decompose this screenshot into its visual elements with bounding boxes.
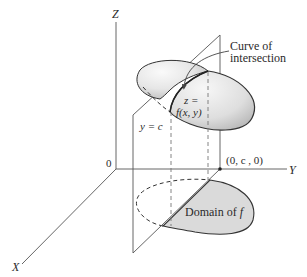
domain-label: Domain of f (185, 206, 243, 218)
point-label: (0, c , 0) (226, 155, 263, 166)
surface-label-line2: f(x, y) (176, 107, 202, 118)
point-0-c-0 (218, 167, 222, 171)
x-axis (22, 169, 116, 264)
y-axis-label: Y (289, 164, 296, 176)
plane-label: y = c (140, 121, 163, 132)
surface-label-line1: z = (184, 95, 198, 106)
domain-label-f: f (240, 205, 243, 219)
z-axis-label: Z (112, 8, 119, 20)
x-axis-label: X (12, 261, 19, 273)
domain-label-text: Domain of (185, 205, 237, 219)
origin-label: 0 (106, 158, 112, 169)
curve-label-line2: intersection (230, 52, 286, 64)
